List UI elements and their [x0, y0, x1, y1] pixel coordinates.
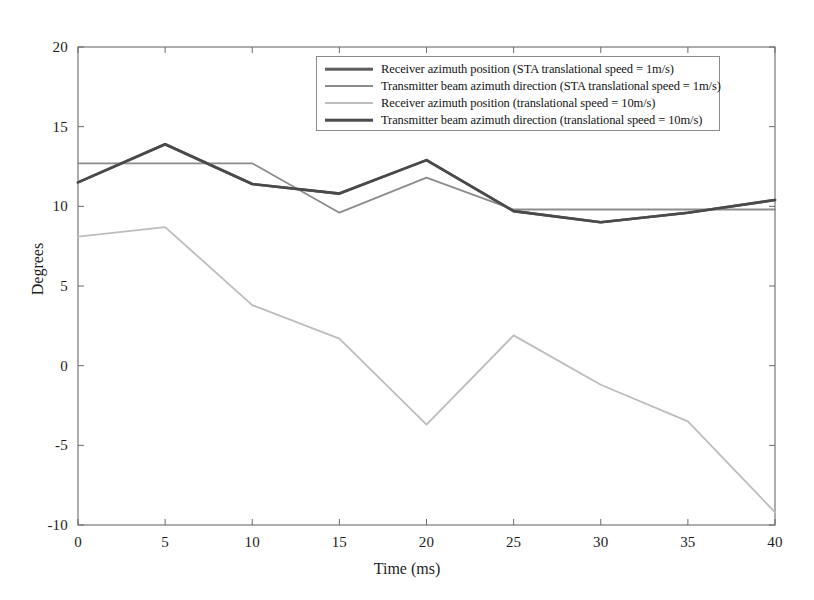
chart-figure: 20151050-5-10 0510152025303540 Time (ms)…: [0, 0, 814, 600]
chart-legend: Receiver azimuth position (STA translati…: [316, 56, 720, 131]
y-tick-label: 0: [14, 357, 68, 374]
y-tick-label: -5: [14, 437, 68, 454]
series-line-4: [78, 144, 775, 222]
y-axis-title: Degrees: [29, 209, 47, 329]
legend-label: Transmitter beam azimuth direction (STA …: [381, 79, 721, 94]
legend-line-swatch: [323, 79, 375, 93]
legend-label: Receiver azimuth position (STA translati…: [381, 62, 674, 77]
x-tick-label: 30: [593, 534, 608, 551]
series-line-1: [78, 144, 775, 222]
y-tick-label: 20: [14, 39, 68, 56]
legend-entry: Receiver azimuth position (translational…: [323, 95, 713, 111]
legend-label: Transmitter beam azimuth direction (tran…: [381, 113, 702, 128]
series-lines: [78, 144, 775, 512]
series-line-3: [78, 227, 775, 512]
legend-label: Receiver azimuth position (translational…: [381, 96, 655, 111]
x-tick-label: 0: [74, 534, 82, 551]
x-tick-label: 35: [680, 534, 695, 551]
x-tick-label: 15: [332, 534, 347, 551]
legend-line-swatch: [323, 62, 375, 76]
y-tick-label: -10: [14, 517, 68, 534]
x-tick-label: 5: [161, 534, 169, 551]
legend-entry: Receiver azimuth position (STA translati…: [323, 61, 713, 77]
legend-line-swatch: [323, 113, 375, 127]
legend-entry: Transmitter beam azimuth direction (tran…: [323, 112, 713, 128]
series-line-2: [78, 163, 775, 212]
x-tick-label: 25: [506, 534, 521, 551]
x-tick-label: 10: [245, 534, 260, 551]
x-tick-label: 20: [419, 534, 434, 551]
legend-entry: Transmitter beam azimuth direction (STA …: [323, 78, 713, 94]
x-tick-label: 40: [767, 534, 782, 551]
x-axis-title: Time (ms): [0, 560, 814, 578]
y-tick-label: 15: [14, 118, 68, 135]
legend-line-swatch: [323, 96, 375, 110]
